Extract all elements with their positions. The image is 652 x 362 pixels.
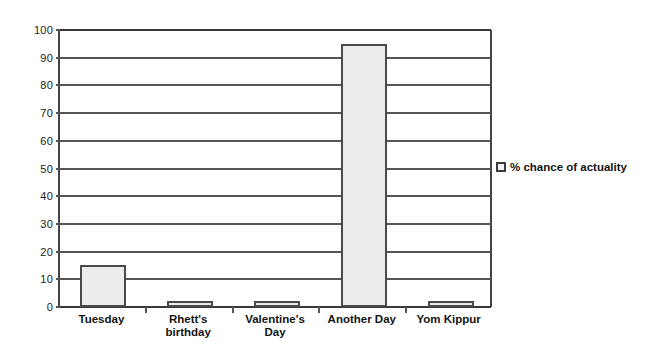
bar — [341, 44, 387, 307]
y-tick-label: 40 — [10, 191, 53, 202]
bar — [167, 301, 213, 307]
y-tick-label: 10 — [10, 274, 53, 285]
x-category-label: Tuesday — [58, 313, 145, 326]
y-tick-label: 80 — [10, 80, 53, 91]
bar — [254, 301, 300, 307]
legend-entry-label: % chance of actuality — [510, 161, 627, 173]
x-category-label-line: Tuesday — [58, 313, 145, 326]
bar — [80, 265, 126, 307]
x-category-label: Yom Kippur — [405, 313, 492, 326]
y-tick-label: 70 — [10, 108, 53, 119]
plot-area — [58, 30, 492, 307]
y-tick-label: 60 — [10, 136, 53, 147]
x-category-label: Rhett'sbirthday — [145, 313, 232, 339]
bar-chart: 1009080706050403020100 TuesdayRhett'sbir… — [0, 0, 652, 362]
y-tick-label: 20 — [10, 247, 53, 258]
y-tick-label: 50 — [10, 164, 53, 175]
bars-layer — [60, 30, 490, 307]
y-tick-label: 30 — [10, 219, 53, 230]
x-category-label: Valentine'sDay — [232, 313, 319, 339]
chart-legend: % chance of actuality — [496, 161, 627, 173]
x-category-label-line: Rhett's — [145, 313, 232, 326]
y-tick-label: 0 — [10, 302, 53, 313]
legend-swatch-icon — [496, 162, 506, 172]
bar — [428, 301, 474, 307]
x-category-label-line: Valentine's — [232, 313, 319, 326]
x-axis-category-labels: TuesdayRhett'sbirthdayValentine'sDayAnot… — [58, 313, 492, 353]
y-axis-tick-labels: 1009080706050403020100 — [10, 22, 53, 314]
y-tick-label: 100 — [10, 25, 53, 36]
x-category-label-line: Yom Kippur — [405, 313, 492, 326]
x-category-label-line: Another Day — [318, 313, 405, 326]
x-category-label: Another Day — [318, 313, 405, 326]
x-category-label-line: Day — [232, 326, 319, 339]
y-tick-label: 90 — [10, 53, 53, 64]
x-category-label-line: birthday — [145, 326, 232, 339]
